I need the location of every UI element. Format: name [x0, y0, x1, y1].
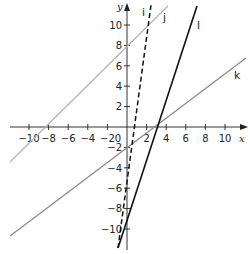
x-tick-label: 8 — [202, 133, 208, 144]
y-tick-label: −6 — [107, 183, 122, 194]
y-tick-label: −8 — [107, 203, 122, 214]
x-axis-arrow-icon — [240, 124, 248, 130]
y-tick-label: −10 — [101, 224, 122, 235]
x-tick-label: 4 — [163, 133, 169, 144]
x-tick-labels: −10 −8 −6 −4 −2 2 4 6 8 10 — [18, 133, 231, 144]
x-tick-label: 6 — [183, 133, 189, 144]
x-axis-label: x — [239, 133, 245, 144]
y-axis-label: y — [116, 1, 123, 12]
line-k — [10, 58, 246, 236]
line-label-i: i — [142, 6, 145, 19]
coordinate-plane: −10 −8 −6 −4 −2 2 4 6 8 10 0 10 8 6 4 2 … — [0, 0, 250, 254]
x-tick-label: −8 — [41, 133, 56, 144]
y-tick-label: 10 — [109, 20, 122, 31]
y-tick-label: 4 — [116, 81, 122, 92]
y-tick-label: −4 — [107, 163, 122, 174]
line-label-k: k — [234, 69, 241, 82]
x-tick-label: 10 — [219, 133, 232, 144]
y-tick-label: 6 — [116, 61, 122, 72]
y-axis-arrow-icon — [124, 3, 130, 11]
x-tick-label: −6 — [61, 133, 76, 144]
y-tick-label: 2 — [116, 101, 122, 112]
y-tick-label: 8 — [116, 40, 122, 51]
line-label-l: l — [197, 19, 200, 32]
y-tick-label: −2 — [107, 142, 122, 153]
x-tick-label: −4 — [80, 133, 95, 144]
line-label-j: j — [162, 11, 166, 24]
